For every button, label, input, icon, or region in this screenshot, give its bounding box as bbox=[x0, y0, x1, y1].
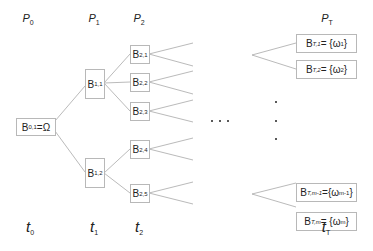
ellipsis-dot bbox=[211, 120, 213, 122]
node-b12: B1,2 bbox=[85, 158, 105, 188]
time-label-t1: t1 bbox=[90, 218, 98, 236]
time-label-t2: t2 bbox=[135, 218, 143, 236]
node-b23: B2,3 bbox=[130, 102, 150, 121]
node-b11: B1,1 bbox=[85, 69, 105, 99]
partition-label-p1: P1 bbox=[88, 12, 99, 26]
partition-label-p0: P0 bbox=[22, 12, 33, 26]
node-b21: B2,1 bbox=[130, 45, 150, 64]
node-bt1: BT,1= {ω1} bbox=[296, 34, 357, 53]
node-b25: B2,5 bbox=[130, 184, 150, 203]
partition-label-pt: PT bbox=[321, 12, 333, 26]
ellipsis-dot bbox=[227, 120, 229, 122]
time-label-t0: t0 bbox=[26, 218, 34, 236]
vertical-ellipsis-dot bbox=[275, 101, 277, 103]
node-b01-omega: B0,1=Ω bbox=[16, 118, 56, 136]
partition-label-p2: P2 bbox=[133, 12, 144, 26]
node-bt2: BT,2= {ω2} bbox=[296, 60, 357, 79]
vertical-ellipsis-dot bbox=[275, 138, 277, 140]
node-b24: B2,4 bbox=[130, 140, 150, 159]
ellipsis-dot bbox=[219, 120, 221, 122]
node-b22: B2,2 bbox=[130, 73, 150, 92]
time-label-tt: tT bbox=[322, 218, 330, 236]
vertical-ellipsis-dot bbox=[275, 120, 277, 122]
node-btm-1: BT,m-1={ωm-1} bbox=[296, 183, 357, 202]
